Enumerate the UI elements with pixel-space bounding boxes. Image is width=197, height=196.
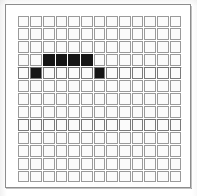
grid-cell-empty[interactable] <box>119 54 131 66</box>
grid-cell-filled[interactable] <box>68 54 80 66</box>
grid-cell-empty[interactable] <box>18 67 30 79</box>
grid-cell-empty[interactable] <box>18 145 30 157</box>
grid-cell-empty[interactable] <box>106 119 118 131</box>
grid-cell-empty[interactable] <box>81 28 93 40</box>
grid-cell-empty[interactable] <box>157 16 169 28</box>
grid-cell-empty[interactable] <box>94 16 106 28</box>
grid-cell-empty[interactable] <box>43 41 55 53</box>
grid-cell-empty[interactable] <box>119 93 131 105</box>
grid-cell-empty[interactable] <box>170 145 182 157</box>
grid-cell-empty[interactable] <box>30 171 42 183</box>
grid-cell-empty[interactable] <box>106 16 118 28</box>
grid-cell-empty[interactable] <box>43 171 55 183</box>
grid-cell-empty[interactable] <box>94 158 106 170</box>
grid-cell-empty[interactable] <box>132 28 144 40</box>
grid-cell-empty[interactable] <box>68 132 80 144</box>
grid-cell-empty[interactable] <box>94 93 106 105</box>
grid-cell-empty[interactable] <box>170 41 182 53</box>
grid-cell-empty[interactable] <box>119 145 131 157</box>
grid-cell-empty[interactable] <box>56 93 68 105</box>
grid-cell-empty[interactable] <box>144 54 156 66</box>
grid-cell-empty[interactable] <box>119 80 131 92</box>
grid-cell-empty[interactable] <box>170 93 182 105</box>
grid-cell-empty[interactable] <box>30 16 42 28</box>
grid-cell-empty[interactable] <box>144 41 156 53</box>
grid-cell-empty[interactable] <box>94 171 106 183</box>
grid-cell-empty[interactable] <box>144 132 156 144</box>
grid-cell-empty[interactable] <box>106 132 118 144</box>
grid-cell-empty[interactable] <box>106 80 118 92</box>
grid-cell-empty[interactable] <box>68 16 80 28</box>
grid-cell-empty[interactable] <box>94 145 106 157</box>
grid-cell-empty[interactable] <box>18 41 30 53</box>
grid-cell-empty[interactable] <box>43 119 55 131</box>
grid-cell-empty[interactable] <box>43 93 55 105</box>
grid-cell-empty[interactable] <box>132 80 144 92</box>
grid-cell-empty[interactable] <box>132 119 144 131</box>
grid-cell-empty[interactable] <box>56 106 68 118</box>
grid-cell-empty[interactable] <box>30 28 42 40</box>
grid-cell-empty[interactable] <box>43 16 55 28</box>
grid-cell-empty[interactable] <box>43 80 55 92</box>
grid-cell-empty[interactable] <box>94 41 106 53</box>
grid-cell-empty[interactable] <box>43 158 55 170</box>
grid-cell-empty[interactable] <box>106 171 118 183</box>
grid-cell-empty[interactable] <box>18 28 30 40</box>
grid-cell-empty[interactable] <box>18 80 30 92</box>
grid-cell-empty[interactable] <box>144 171 156 183</box>
grid-cell-empty[interactable] <box>132 54 144 66</box>
grid-cell-empty[interactable] <box>56 145 68 157</box>
grid-cell-empty[interactable] <box>81 158 93 170</box>
grid-cell-empty[interactable] <box>144 145 156 157</box>
grid-cell-empty[interactable] <box>157 119 169 131</box>
grid-cell-empty[interactable] <box>170 67 182 79</box>
grid-cell-empty[interactable] <box>106 28 118 40</box>
grid-cell-empty[interactable] <box>43 28 55 40</box>
grid-cell-filled[interactable] <box>43 54 55 66</box>
grid-cell-empty[interactable] <box>43 67 55 79</box>
grid-cell-empty[interactable] <box>94 80 106 92</box>
grid-cell-empty[interactable] <box>144 80 156 92</box>
grid-cell-empty[interactable] <box>81 106 93 118</box>
grid-cell-empty[interactable] <box>43 106 55 118</box>
grid-cell-empty[interactable] <box>132 145 144 157</box>
grid-cell-empty[interactable] <box>106 106 118 118</box>
cell-grid[interactable] <box>17 15 182 183</box>
grid-cell-empty[interactable] <box>81 93 93 105</box>
grid-cell-empty[interactable] <box>132 41 144 53</box>
grid-cell-empty[interactable] <box>68 106 80 118</box>
grid-cell-empty[interactable] <box>144 16 156 28</box>
grid-cell-empty[interactable] <box>144 119 156 131</box>
grid-cell-empty[interactable] <box>106 54 118 66</box>
grid-cell-empty[interactable] <box>81 16 93 28</box>
grid-cell-empty[interactable] <box>18 132 30 144</box>
grid-cell-empty[interactable] <box>81 80 93 92</box>
grid-cell-empty[interactable] <box>56 67 68 79</box>
grid-cell-filled[interactable] <box>94 67 106 79</box>
grid-cell-empty[interactable] <box>81 145 93 157</box>
grid-cell-empty[interactable] <box>43 132 55 144</box>
grid-cell-empty[interactable] <box>144 158 156 170</box>
grid-cell-empty[interactable] <box>157 158 169 170</box>
grid-cell-filled[interactable] <box>56 54 68 66</box>
grid-cell-empty[interactable] <box>157 28 169 40</box>
grid-cell-empty[interactable] <box>56 132 68 144</box>
grid-cell-empty[interactable] <box>30 132 42 144</box>
grid-cell-empty[interactable] <box>68 80 80 92</box>
grid-cell-empty[interactable] <box>132 171 144 183</box>
grid-cell-empty[interactable] <box>106 145 118 157</box>
grid-cell-empty[interactable] <box>170 119 182 131</box>
grid-cell-empty[interactable] <box>157 132 169 144</box>
grid-cell-empty[interactable] <box>68 41 80 53</box>
grid-cell-empty[interactable] <box>56 171 68 183</box>
grid-cell-empty[interactable] <box>30 145 42 157</box>
grid-cell-empty[interactable] <box>119 67 131 79</box>
grid-cell-empty[interactable] <box>68 145 80 157</box>
grid-cell-empty[interactable] <box>81 119 93 131</box>
grid-cell-empty[interactable] <box>18 106 30 118</box>
grid-cell-empty[interactable] <box>157 145 169 157</box>
grid-cell-empty[interactable] <box>68 93 80 105</box>
grid-cell-empty[interactable] <box>30 54 42 66</box>
grid-cell-empty[interactable] <box>81 41 93 53</box>
grid-cell-empty[interactable] <box>68 119 80 131</box>
